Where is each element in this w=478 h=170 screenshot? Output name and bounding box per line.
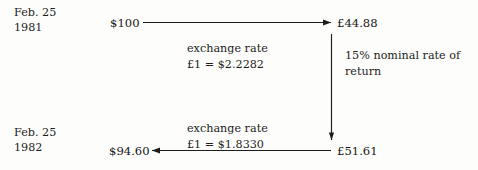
nominal-return-annotation: 15% nominal rate of return — [345, 48, 473, 80]
date-label-start: Feb. 25 1981 — [14, 6, 56, 36]
nominal-return-line-1: 15% nominal rate of — [345, 48, 473, 64]
amount-gbp-end: £51.61 — [337, 144, 378, 158]
exchange-rate-bottom-value: £1 = $1.8330 — [187, 137, 268, 153]
exchange-rate-annotation-top: exchange rate £1 = $2.2282 — [187, 41, 268, 73]
exchange-rate-bottom-label: exchange rate — [187, 121, 268, 137]
date-end-monthday: Feb. 25 — [14, 126, 56, 141]
exchange-rate-top-label: exchange rate — [187, 41, 268, 57]
date-start-year: 1981 — [14, 21, 56, 36]
amount-usd-end: $94.60 — [109, 144, 150, 158]
date-label-end: Feb. 25 1982 — [14, 126, 56, 156]
exchange-rate-annotation-bottom: exchange rate £1 = $1.8330 — [187, 121, 268, 153]
amount-gbp-start: £44.88 — [337, 16, 378, 30]
exchange-rate-top-value: £1 = $2.2282 — [187, 57, 268, 73]
nominal-return-line-2: return — [345, 64, 473, 80]
currency-return-diagram: Feb. 25 1981 Feb. 25 1982 $100 £44.88 $9… — [0, 0, 478, 170]
date-start-monthday: Feb. 25 — [14, 6, 56, 21]
amount-usd-start: $100 — [110, 16, 140, 30]
date-end-year: 1982 — [14, 141, 56, 156]
